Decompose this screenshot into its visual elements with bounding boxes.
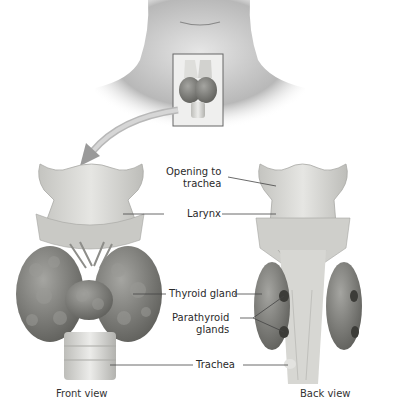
label-opening-to-trachea: Opening to trachea [166, 166, 221, 190]
diagram-artwork [0, 0, 397, 406]
label-parathyroid-line1: Parathyroid [172, 312, 229, 324]
label-parathyroid-glands: Parathyroid glands [172, 312, 229, 336]
caption-front-view: Front view [56, 388, 108, 399]
label-opening-to-trachea-line2: trachea [166, 178, 221, 190]
caption-back-view: Back view [300, 388, 350, 399]
label-parathyroid-line2: glands [172, 324, 229, 336]
thyroid-diagram: Opening to trachea Larynx Thyroid gland … [0, 0, 397, 406]
label-larynx: Larynx [187, 208, 221, 220]
label-trachea: Trachea [196, 359, 235, 371]
front-view-artwork [16, 164, 162, 380]
back-view-artwork [254, 164, 362, 384]
neck-illustration [95, 0, 305, 130]
label-thyroid-gland: Thyroid gland [169, 288, 238, 300]
label-opening-to-trachea-line1: Opening to [166, 166, 221, 178]
